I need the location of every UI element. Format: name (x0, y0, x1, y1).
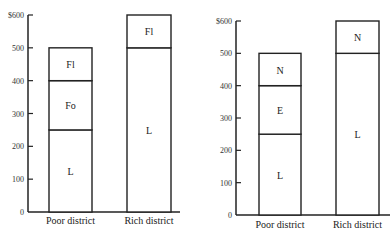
segment-label: L (354, 129, 360, 140)
y-tick-label: 100 (12, 175, 24, 184)
category-label: Poor district (255, 219, 304, 230)
y-tick-label: 400 (12, 77, 24, 86)
category-label: Poor district (46, 215, 95, 226)
segment-label: E (277, 105, 283, 116)
y-tick-label: 0 (20, 208, 24, 217)
segment-label: Fl (145, 26, 154, 37)
y-tick-label: $600 (216, 17, 232, 26)
segment-label: N (354, 32, 361, 43)
y-tick-label: 100 (220, 179, 232, 188)
segment-label: N (276, 65, 283, 76)
y-tick-label: 200 (12, 142, 24, 151)
y-tick-label: 200 (220, 146, 232, 155)
category-label: Rich district (333, 219, 382, 230)
y-tick-label: 400 (220, 82, 232, 91)
charts-canvas: 0100200300400500$600LFoFlPoor districtLF… (0, 0, 391, 247)
segment-label: L (67, 166, 73, 177)
y-tick-label: 300 (12, 110, 24, 119)
segment-label: Fl (66, 59, 75, 70)
segment-label: Fo (65, 100, 76, 111)
category-label: Rich district (124, 215, 173, 226)
y-tick-label: $600 (8, 11, 24, 20)
segment-label: L (277, 170, 283, 181)
y-tick-label: 500 (12, 44, 24, 53)
y-tick-label: 500 (220, 49, 232, 58)
y-tick-label: 0 (228, 211, 232, 220)
segment-label: L (146, 125, 152, 136)
y-tick-label: 300 (220, 114, 232, 123)
